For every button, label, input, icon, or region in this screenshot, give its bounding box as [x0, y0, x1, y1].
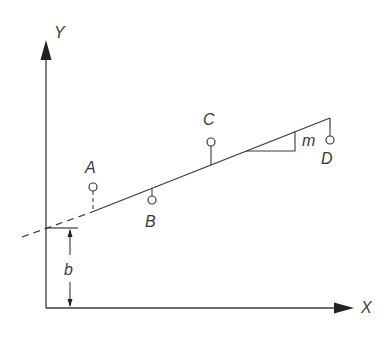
x-axis-label: X [360, 299, 373, 316]
data-point-d: D [321, 128, 334, 167]
point-c-marker-icon [207, 138, 215, 146]
slope-label: m [302, 132, 315, 149]
point-a-label: A [84, 159, 96, 176]
x-axis-arrow-icon [334, 303, 354, 314]
point-d-label: D [321, 150, 333, 167]
intercept-label: b [64, 261, 73, 278]
fitted-line [22, 118, 330, 237]
data-point-a: A [84, 159, 97, 211]
y-axis-label: Y [54, 24, 66, 41]
point-d-marker-icon [326, 136, 334, 144]
x-axis: X [46, 299, 373, 316]
intercept-arrow-up-icon [68, 229, 73, 237]
point-b-marker-icon [148, 196, 156, 204]
data-point-c: C [203, 111, 215, 165]
intercept-marker: b [46, 228, 78, 307]
y-axis: Y [41, 24, 67, 308]
point-b-label: B [145, 213, 156, 230]
point-a-marker-icon [89, 183, 97, 191]
y-axis-arrow-icon [41, 40, 52, 60]
data-point-b: B [145, 189, 156, 230]
regression-line-diagram: Y X b m A B C [0, 0, 386, 337]
fitted-line-extrapolation [22, 212, 92, 237]
point-c-label: C [203, 111, 215, 128]
slope-triangle: m [246, 131, 315, 151]
intercept-arrow-down-icon [68, 299, 73, 307]
